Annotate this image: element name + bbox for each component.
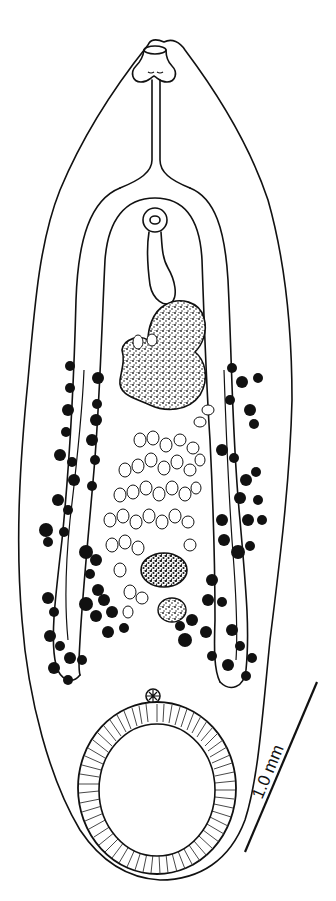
cirrus-sac (143, 208, 175, 304)
testis-posterior (158, 598, 186, 622)
trematode-illustration: 1.0 mm (0, 0, 336, 901)
excretory-pore (146, 689, 160, 703)
ovary (120, 301, 206, 410)
testis-anterior (141, 553, 187, 587)
scale-bar-label: 1.0 mm (248, 742, 288, 802)
ventral-sucker (78, 702, 236, 874)
esophagus (120, 80, 190, 188)
oral-sucker (133, 46, 176, 82)
